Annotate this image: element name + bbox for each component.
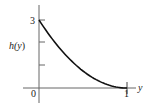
y-tick-label-3: 3 [30, 15, 35, 26]
y-axis-label: h(y) [9, 40, 25, 52]
curve-h-of-y [39, 20, 127, 88]
y-axis-label-close: ) [22, 40, 25, 52]
origin-label: 0 [31, 88, 36, 99]
function-plot: 3 0 1 y h(y) [0, 0, 148, 107]
x-tick-label-1: 1 [124, 88, 129, 99]
x-axis-label: y [137, 82, 143, 93]
